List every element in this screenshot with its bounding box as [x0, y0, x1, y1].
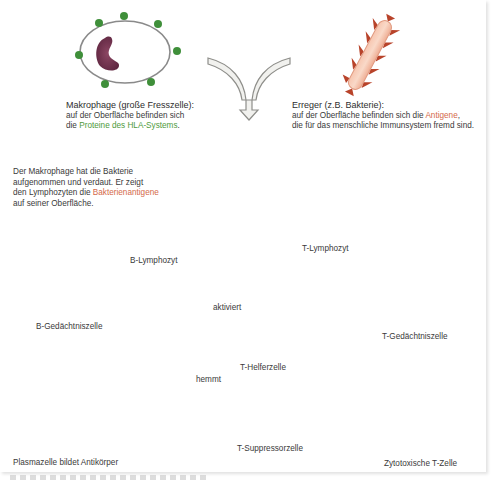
- inhibits-label: hemmt: [196, 375, 221, 386]
- bacterium: [336, 9, 404, 101]
- t-suppressor-label: T-Suppressorzelle: [237, 444, 303, 455]
- pathogen-description: Erreger (z.B. Bakterie): auf der Oberflä…: [292, 100, 474, 132]
- macrophage-cell: [75, 12, 181, 88]
- t-helper-label: T-Helferzelle: [240, 363, 286, 374]
- cytotoxic-t-label: Zytotoxische T-Zelle: [384, 459, 457, 470]
- t-memory-label: T-Gedächtniszelle: [382, 332, 448, 343]
- immune-response-diagram: [0, 0, 498, 482]
- b-memory-label: B-Gedächtniszelle: [36, 322, 102, 333]
- antigens-highlight: Antigene: [425, 111, 457, 120]
- macrophage-description: Makrophage (große Fresszelle): auf der O…: [66, 100, 194, 132]
- presentation-description: Der Makrophage hat die Bakterie aufgenom…: [13, 167, 159, 209]
- t-lymphocyte-label: T-Lymphozyt: [302, 244, 349, 255]
- caption-placeholder: [10, 475, 210, 480]
- activates-label: aktiviert: [213, 303, 241, 314]
- plasma-cell-label: Plasmazelle bildet Antikörper: [13, 458, 118, 469]
- bacterial-antigens-highlight: Bakterienantigene: [93, 188, 159, 197]
- merge-arrow: [208, 58, 290, 120]
- hla-proteins-highlight: Proteine des HLA-Systems: [79, 121, 177, 130]
- b-lymphocyte-label: B-Lymphozyt: [130, 256, 177, 267]
